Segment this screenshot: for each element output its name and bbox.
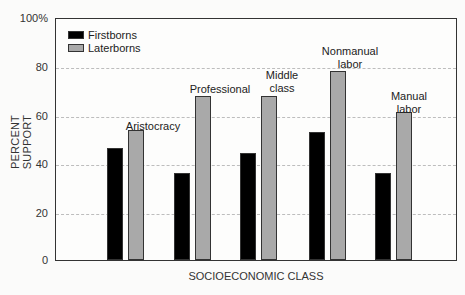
bar-manual-labor-laterborns bbox=[396, 112, 412, 260]
bar-nonmanual-labor-laterborns bbox=[330, 71, 346, 260]
firstborns-swatch bbox=[68, 31, 84, 39]
bar-middle-class-firstborns bbox=[240, 153, 256, 260]
category-label-nonmanual-labor: Nonmanual labor bbox=[310, 45, 390, 71]
y-tick-20: 20 bbox=[0, 207, 48, 219]
bar-professional-firstborns bbox=[174, 173, 190, 260]
legend-label-firstborns: Firstborns bbox=[88, 29, 137, 41]
legend: Firstborns Laterborns bbox=[68, 28, 141, 54]
plot-area: Firstborns Laterborns Aristocracy Profes… bbox=[55, 18, 457, 261]
y-axis-label: PERCENT SUPPORT bbox=[9, 87, 33, 197]
bar-middle-class-laterborns bbox=[261, 96, 277, 260]
y-tick-80: 80 bbox=[0, 61, 48, 73]
legend-item-firstborns: Firstborns bbox=[68, 28, 141, 41]
bar-professional-laterborns bbox=[195, 96, 211, 260]
y-tick-100: 100% bbox=[0, 12, 48, 24]
bar-manual-labor-firstborns bbox=[375, 173, 391, 260]
bar-nonmanual-labor-firstborns bbox=[309, 132, 325, 260]
category-label-aristocracy: Aristocracy bbox=[113, 120, 193, 133]
category-label-middle-class: Middle class bbox=[242, 69, 322, 95]
legend-item-laterborns: Laterborns bbox=[68, 41, 141, 54]
bar-aristocracy-firstborns bbox=[107, 148, 123, 260]
laterborns-swatch bbox=[68, 44, 84, 52]
category-label-manual-labor: Manual labor bbox=[369, 90, 449, 116]
bar-aristocracy-laterborns bbox=[128, 130, 144, 260]
y-tick-0: 0 bbox=[0, 254, 48, 266]
x-axis-label: SOCIOECONOMIC CLASS bbox=[55, 270, 457, 282]
legend-label-laterborns: Laterborns bbox=[88, 42, 141, 54]
